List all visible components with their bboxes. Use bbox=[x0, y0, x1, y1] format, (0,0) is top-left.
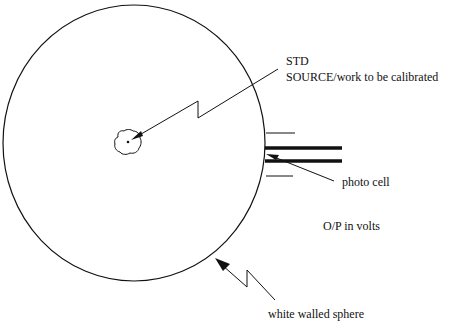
sphere-arrowhead-icon bbox=[215, 258, 230, 271]
white-walled-sphere bbox=[3, 5, 265, 281]
photocell-arrowhead-icon bbox=[266, 154, 279, 160]
output-label: O/P in volts bbox=[323, 219, 380, 233]
source-center-dot bbox=[127, 141, 130, 144]
sphere-label: white walled sphere bbox=[268, 307, 364, 321]
source-leader-line bbox=[136, 69, 278, 137]
diagram-canvas bbox=[0, 0, 449, 325]
std-label: STD bbox=[286, 54, 309, 68]
source-label: SOURCE/work to be calibrated bbox=[286, 70, 438, 84]
photo-cell-label: photo cell bbox=[342, 175, 390, 189]
sphere-leader-line bbox=[222, 265, 275, 300]
